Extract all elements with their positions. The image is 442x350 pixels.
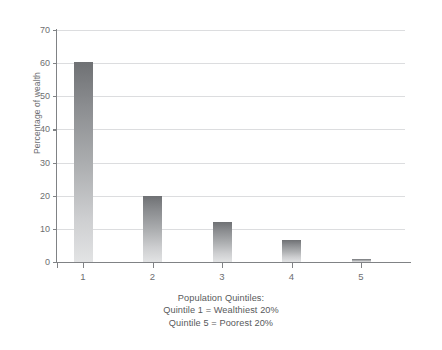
x-tick-label: 1	[80, 271, 85, 282]
y-tick-mark	[53, 129, 57, 130]
caption-line-1: Population Quintiles:	[0, 292, 442, 304]
gridline	[57, 30, 405, 31]
y-tick-label: 30	[40, 158, 50, 168]
y-tick-label: 50	[40, 91, 50, 101]
y-tick-mark	[53, 96, 57, 97]
x-tick-label: 3	[219, 271, 224, 282]
gridline	[57, 129, 405, 130]
bar	[74, 62, 93, 263]
x-axis-origin-tick	[57, 263, 58, 268]
y-tick-label: 10	[40, 224, 50, 234]
y-tick-mark	[53, 163, 57, 164]
y-tick-mark	[53, 196, 57, 197]
plot-area: 010203040506070 12345	[57, 30, 405, 262]
x-tick-mark	[361, 263, 362, 268]
gridline	[57, 196, 405, 197]
y-tick-mark	[53, 63, 57, 64]
y-tick-mark	[53, 229, 57, 230]
y-tick-mark	[53, 30, 57, 31]
x-tick-mark	[292, 263, 293, 268]
bar	[352, 259, 371, 262]
x-tick-label: 5	[358, 271, 363, 282]
y-tick-label: 0	[45, 257, 50, 267]
x-tick-mark	[222, 263, 223, 268]
bar	[143, 196, 162, 262]
y-tick-label: 60	[40, 58, 50, 68]
bar	[213, 222, 232, 262]
y-tick-label: 20	[40, 191, 50, 201]
x-tick-mark	[83, 263, 84, 268]
gridline	[57, 163, 405, 164]
y-tick-label: 40	[40, 124, 50, 134]
caption-line-3: Quintile 5 = Poorest 20%	[0, 317, 442, 329]
chart-caption: Population Quintiles: Quintile 1 = Wealt…	[0, 292, 442, 329]
gridline	[57, 262, 405, 263]
x-tick-mark	[153, 263, 154, 268]
bar-chart-figure: Percentage of wealth 010203040506070 123…	[0, 0, 442, 350]
bar	[282, 240, 301, 262]
x-tick-label: 4	[289, 271, 294, 282]
gridline	[57, 63, 405, 64]
gridline	[57, 96, 405, 97]
caption-line-2: Quintile 1 = Wealthiest 20%	[0, 304, 442, 316]
x-tick-label: 2	[150, 271, 155, 282]
y-tick-label: 70	[40, 25, 50, 35]
